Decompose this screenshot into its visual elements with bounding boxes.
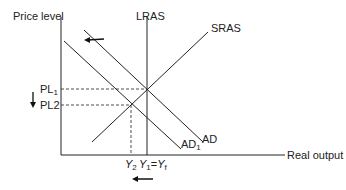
y1-yf-label: Y1=Yf bbox=[139, 159, 167, 172]
ad1-label: AD1 bbox=[181, 139, 201, 152]
x-axis-label: Real output bbox=[287, 150, 343, 161]
output-left-arrow-icon bbox=[132, 176, 153, 182]
pl2-label: PL2 bbox=[40, 100, 60, 111]
ad-curve bbox=[84, 30, 203, 142]
sras-curve bbox=[92, 32, 208, 142]
sras-label: SRAS bbox=[211, 23, 241, 34]
y-axis-label: Price level bbox=[13, 11, 64, 22]
ad1-curve bbox=[64, 41, 181, 149]
ad-shift-arrow-icon bbox=[84, 37, 104, 43]
pl1-label: PL1 bbox=[40, 84, 58, 97]
price-down-arrow-icon bbox=[30, 92, 36, 108]
y2-label: Y2 bbox=[125, 159, 137, 172]
ad-label: AD bbox=[202, 134, 217, 145]
lras-label: LRAS bbox=[136, 11, 165, 22]
